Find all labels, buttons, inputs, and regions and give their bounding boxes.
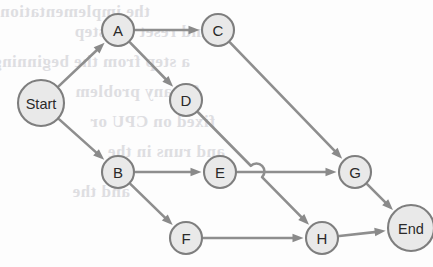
node-label: End <box>398 221 424 237</box>
node-label: D <box>181 92 192 109</box>
node-g[interactable]: G <box>339 156 371 188</box>
arrowhead-h-end <box>374 228 385 236</box>
arrowhead-b-e <box>191 168 202 177</box>
node-h[interactable]: H <box>306 222 338 254</box>
node-label: H <box>317 230 328 247</box>
arrowhead-e-g <box>326 168 337 177</box>
edge-b-f <box>131 184 167 219</box>
edge-g-end <box>367 184 386 203</box>
node-a[interactable]: A <box>102 14 134 46</box>
node-d[interactable]: D <box>170 84 202 116</box>
node-label: F <box>181 230 190 247</box>
node-start[interactable]: Start <box>18 80 64 126</box>
edge-start-a <box>59 49 98 86</box>
node-layer: StartACDBEGFHEnd <box>18 14 433 254</box>
node-c[interactable]: C <box>202 14 234 46</box>
edge-a-d <box>130 43 167 81</box>
node-e[interactable]: E <box>204 156 236 188</box>
arrowhead-f-h <box>293 234 304 243</box>
node-label: A <box>113 22 123 39</box>
node-label: Start <box>26 96 57 112</box>
diagram-page: the implementationand reset the stepa st… <box>0 0 433 267</box>
dag-canvas: StartACDBEGFHEnd <box>0 0 433 267</box>
node-f[interactable]: F <box>170 222 202 254</box>
edge-h-end <box>339 232 376 236</box>
node-label: E <box>215 164 225 181</box>
node-b[interactable]: B <box>102 156 134 188</box>
edge-start-b <box>59 119 97 153</box>
node-label: G <box>349 164 361 181</box>
edge-c-g <box>230 43 336 153</box>
edge-layer <box>59 26 393 243</box>
node-label: C <box>213 22 224 39</box>
node-end[interactable]: End <box>388 205 433 251</box>
arrowhead-a-c <box>189 26 200 35</box>
node-label: B <box>113 164 123 181</box>
